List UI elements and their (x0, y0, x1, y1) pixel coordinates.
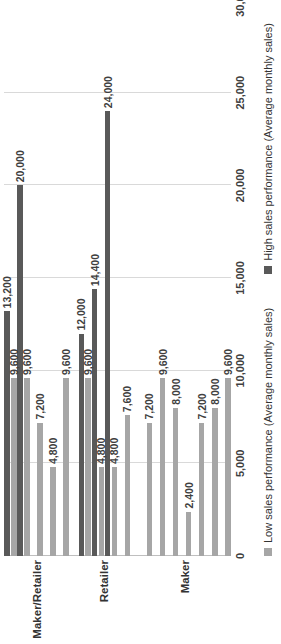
legend-item-high[interactable]: High sales performance (Average monthly … (262, 23, 274, 274)
bar-chart: 05,00010,00015,00020,00025,00030,000 Mak… (0, 0, 281, 644)
bar-value-label-high: 14,400 (89, 254, 101, 286)
plot-area (4, 0, 231, 556)
bar-low[interactable] (125, 415, 131, 556)
bar-high[interactable] (92, 289, 98, 556)
bar-low[interactable] (50, 467, 56, 556)
tick-label-25000: 25,000 (234, 76, 246, 110)
bar-value-label-low: 9,600 (157, 349, 169, 375)
tick-label-5000: 5,000 (234, 450, 246, 478)
gridline-20000 (4, 184, 231, 185)
bar-low[interactable] (173, 408, 179, 556)
category-label-retailer: Retailer (98, 560, 110, 644)
bar-low[interactable] (212, 408, 218, 556)
bar-value-label-low: 7,200 (196, 393, 208, 419)
bar-low[interactable] (147, 423, 153, 556)
bar-value-label-low: 8,000 (170, 378, 182, 404)
legend-swatch-low-icon (264, 548, 272, 556)
legend-item-low[interactable]: Low sales performance (Average monthly s… (262, 308, 274, 556)
bar-value-label-low: 8,000 (209, 378, 221, 404)
bar-value-label-low: 7,600 (121, 386, 133, 412)
bar-value-label-low: 9,600 (8, 349, 20, 375)
bar-low[interactable] (24, 378, 30, 556)
bar-low[interactable] (85, 378, 91, 556)
bar-low[interactable] (199, 423, 205, 556)
bar-low[interactable] (225, 378, 231, 556)
tick-label-10000: 10,000 (234, 354, 246, 388)
bar-value-label-low: 4,800 (108, 438, 120, 464)
bar-value-label-low: 9,600 (21, 349, 33, 375)
bar-value-label-low: 9,600 (60, 349, 72, 375)
bar-value-label-high: 12,000 (75, 298, 87, 330)
bar-low[interactable] (160, 378, 166, 556)
tick-label-15000: 15,000 (234, 261, 246, 295)
legend-swatch-high-icon (264, 266, 272, 274)
bar-value-label-low: 2,400 (183, 482, 195, 508)
legend-label-low: Low sales performance (Average monthly s… (262, 308, 274, 543)
bar-low[interactable] (11, 378, 17, 556)
bar-value-label-high: 13,200 (1, 276, 13, 308)
tick-label-30000: 30,000 (234, 0, 246, 17)
bar-value-label-low: 7,200 (34, 393, 46, 419)
legend-label-high: High sales performance (Average monthly … (262, 23, 274, 261)
gridline-15000 (4, 277, 231, 278)
bar-high[interactable] (105, 111, 111, 556)
bar-low[interactable] (99, 467, 105, 556)
bar-value-label-high: 20,000 (14, 150, 26, 182)
tick-label-20000: 20,000 (234, 169, 246, 203)
bar-low[interactable] (37, 423, 43, 556)
gridline-10000 (4, 370, 231, 371)
bar-value-label-low: 9,600 (222, 349, 234, 375)
bar-value-label-low: 9,600 (82, 349, 94, 375)
bar-value-label-high: 24,000 (102, 76, 114, 108)
category-label-maker: Maker (179, 560, 191, 644)
gridline-25000 (4, 92, 231, 93)
tick-label-0: 0 (234, 553, 246, 559)
bar-value-label-low: 7,200 (143, 393, 155, 419)
bar-low[interactable] (112, 467, 118, 556)
chart-legend: Low sales performance (Average monthly s… (257, 23, 279, 556)
bar-value-label-low: 4,800 (95, 438, 107, 464)
category-label-maker-retailer: Maker/Retailer (31, 560, 43, 644)
bar-low[interactable] (186, 512, 192, 556)
bar-value-label-low: 4,800 (47, 438, 59, 464)
chart-rotation-wrapper: 05,00010,00015,00020,00025,00030,000 Mak… (0, 0, 281, 644)
bar-low[interactable] (63, 378, 69, 556)
